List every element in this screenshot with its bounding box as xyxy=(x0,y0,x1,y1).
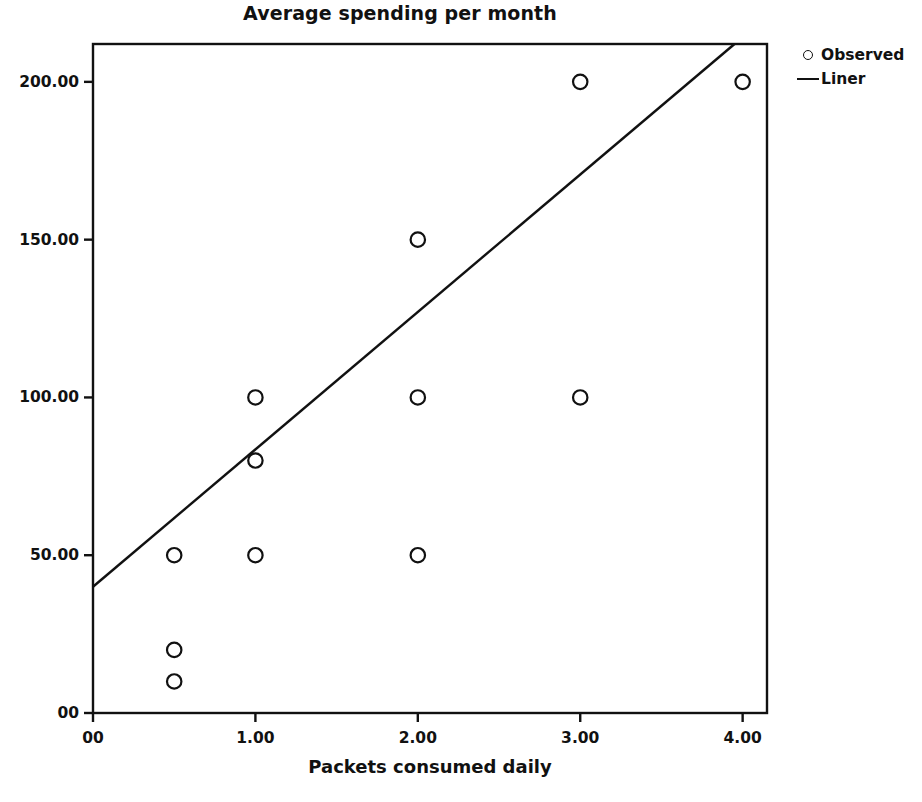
fit-line-segment xyxy=(93,44,735,587)
data-point xyxy=(735,75,749,89)
y-tick-label: 50.00 xyxy=(0,546,79,564)
data-point xyxy=(248,390,262,404)
legend-item-liner: Liner xyxy=(795,68,915,90)
x-tick-label: 3.00 xyxy=(561,729,599,747)
data-point xyxy=(248,548,262,562)
y-tick-label: 200.00 xyxy=(0,73,79,91)
data-point xyxy=(573,75,587,89)
y-axis-ticks xyxy=(84,82,93,713)
x-tick-label: 2.00 xyxy=(399,729,437,747)
x-axis-ticks xyxy=(93,713,743,722)
plot-frame xyxy=(93,44,767,713)
data-point-group xyxy=(167,75,750,689)
chart-legend: Observed Liner xyxy=(795,44,915,92)
data-point xyxy=(411,390,425,404)
legend-label-observed: Observed xyxy=(821,46,904,64)
data-point xyxy=(411,548,425,562)
y-tick-label: 150.00 xyxy=(0,231,79,249)
x-tick-label: 4.00 xyxy=(724,729,762,747)
plot-area xyxy=(0,0,922,802)
data-point xyxy=(167,643,181,657)
data-point xyxy=(248,453,262,467)
y-tick-label: 00 xyxy=(0,704,79,722)
legend-item-observed: Observed xyxy=(795,44,915,66)
y-tick-label: 100.00 xyxy=(0,388,79,406)
line-marker-icon xyxy=(795,78,821,80)
data-point xyxy=(167,674,181,688)
x-tick-label: 1.00 xyxy=(236,729,274,747)
scatter-chart: Average spending per month 0050.00100.00… xyxy=(0,0,922,802)
regression-line xyxy=(93,44,735,587)
data-point xyxy=(411,232,425,246)
data-point xyxy=(167,548,181,562)
legend-label-liner: Liner xyxy=(821,70,865,88)
x-axis-title: Packets consumed daily xyxy=(0,756,860,777)
open-circle-marker-icon xyxy=(795,50,821,60)
x-tick-label: 00 xyxy=(82,729,104,747)
data-point xyxy=(573,390,587,404)
